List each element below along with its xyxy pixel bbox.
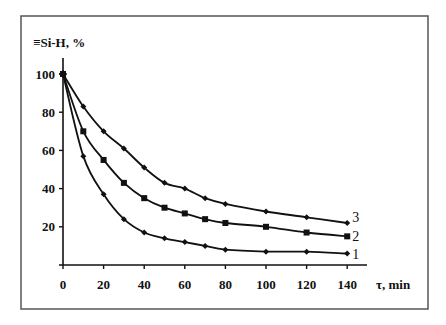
x-tick-label: 0: [60, 277, 67, 292]
square-marker: [263, 224, 269, 230]
y-tick-label: 80: [42, 105, 55, 120]
series-label: 3: [352, 210, 359, 225]
square-marker: [222, 220, 228, 226]
x-tick-label: 80: [219, 277, 232, 292]
y-tick-label: 100: [36, 67, 56, 82]
square-marker: [101, 157, 107, 163]
chart: ≡Si-H, % τ, min 204060801000204060801001…: [0, 0, 446, 325]
series-label: 2: [352, 229, 359, 244]
square-marker: [121, 180, 127, 186]
y-tick-label: 20: [42, 219, 55, 234]
x-tick-label: 100: [256, 277, 276, 292]
x-tick-label: 140: [337, 277, 357, 292]
x-tick-label: 40: [138, 277, 151, 292]
square-marker: [344, 233, 350, 239]
square-marker: [202, 216, 208, 222]
y-tick-label: 40: [42, 181, 55, 196]
x-tick-label: 60: [178, 277, 191, 292]
series-label: 1: [352, 247, 359, 262]
y-axis-title: ≡Si-H, %: [33, 35, 85, 50]
square-marker: [304, 230, 310, 236]
chart-canvas: ≡Si-H, % τ, min 204060801000204060801001…: [0, 0, 446, 325]
x-tick-label: 120: [297, 277, 317, 292]
x-tick-label: 20: [97, 277, 110, 292]
y-tick-label: 60: [42, 143, 55, 158]
square-marker: [162, 205, 168, 211]
x-axis-title: τ, min: [376, 277, 411, 292]
square-marker: [80, 128, 86, 134]
square-marker: [141, 195, 147, 201]
square-marker: [182, 210, 188, 216]
